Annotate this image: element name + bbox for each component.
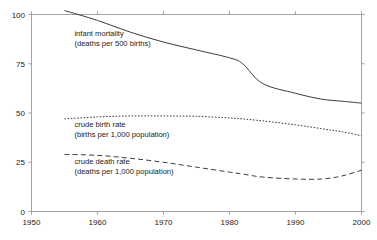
annotation-1-line2: (births per 1,000 population) [74, 130, 169, 139]
annotation-0-line1: infant mortality [74, 29, 124, 38]
line-chart: 0255075100 195019601970198019902000 infa… [0, 0, 377, 240]
annotation-2-line1: crude death rate [74, 157, 129, 166]
x-axis-label-1960: 1960 [89, 218, 107, 227]
chart-figure: 0255075100 195019601970198019902000 infa… [0, 0, 377, 240]
x-axis-label-1950: 1950 [23, 218, 41, 227]
annotation-1-line1: crude birth rate [74, 120, 125, 129]
x-axis-label-1980: 1980 [221, 218, 239, 227]
annotation-2-line2: (deaths per 1,000 population) [74, 167, 174, 176]
x-axis-label-2000: 2000 [353, 218, 371, 227]
chart-background [0, 0, 377, 240]
y-axis-label-0: 0 [21, 208, 26, 217]
x-axis-label-1990: 1990 [287, 218, 305, 227]
y-axis-label-25: 25 [16, 158, 25, 167]
y-axis-label-75: 75 [16, 60, 25, 69]
annotation-0-line2: (deaths per 500 births) [74, 39, 151, 48]
x-axis-label-1970: 1970 [155, 218, 173, 227]
y-axis-label-100: 100 [12, 11, 26, 20]
y-axis-label-50: 50 [16, 109, 25, 118]
